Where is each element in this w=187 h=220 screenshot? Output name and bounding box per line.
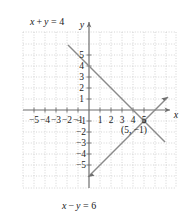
y-tick-label-2: 2 bbox=[79, 83, 84, 93]
y-tick-label-5: 5 bbox=[79, 50, 84, 60]
x-tick-label-1: 1 bbox=[98, 115, 103, 125]
eq2-operator: − bbox=[68, 200, 74, 211]
x-tick-label-neg5: −5 bbox=[29, 115, 39, 125]
equation-label-line2: x−y= 6 bbox=[61, 200, 96, 211]
eq1-operator: + bbox=[36, 16, 42, 27]
y-tick-label-neg3: −3 bbox=[76, 138, 86, 148]
eq2-rhs: = 6 bbox=[83, 200, 96, 211]
eq2-var-y: y bbox=[75, 200, 81, 211]
y-tick-label-neg4: −4 bbox=[76, 149, 86, 159]
y-axis-label: y bbox=[79, 19, 85, 30]
y-tick-label-3: 3 bbox=[79, 72, 84, 82]
x-tick-label-4: 4 bbox=[131, 115, 136, 125]
eq1-var-y: y bbox=[43, 16, 49, 27]
equation-label-line1: x+y= 4 bbox=[29, 16, 64, 27]
y-tick-label-1: 1 bbox=[79, 94, 84, 104]
y-tick-label-neg2: −2 bbox=[76, 127, 86, 137]
x-tick-label-neg3: −3 bbox=[51, 115, 61, 125]
eq1-var-x: x bbox=[29, 16, 35, 27]
y-tick-label-4: 4 bbox=[79, 61, 84, 71]
eq1-rhs: = 4 bbox=[51, 16, 64, 27]
x-tick-label-neg2: −2 bbox=[62, 115, 72, 125]
x-tick-label-neg4: −4 bbox=[40, 115, 50, 125]
y-tick-label-neg5: −5 bbox=[76, 160, 86, 170]
coordinate-graph-figure: −5 −4 −3 −2 −1 1 2 3 4 5 5 4 3 2 1 −1 −2… bbox=[0, 0, 187, 220]
x-tick-label-5: 5 bbox=[142, 115, 147, 125]
x-axis-label: x bbox=[173, 109, 179, 120]
y-tick-label-neg1: −1 bbox=[76, 116, 86, 126]
intersection-point-label: (5, −1) bbox=[121, 125, 147, 136]
x-tick-label-3: 3 bbox=[120, 115, 125, 125]
x-tick-label-2: 2 bbox=[109, 115, 114, 125]
eq2-var-x: x bbox=[61, 200, 67, 211]
cartesian-plane: −5 −4 −3 −2 −1 1 2 3 4 5 5 4 3 2 1 −1 −2… bbox=[0, 0, 187, 220]
